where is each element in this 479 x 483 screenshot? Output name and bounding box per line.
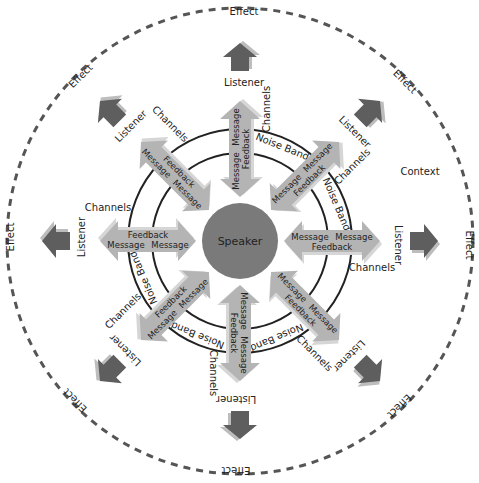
communication-model-diagram: Context MessageMessageFeedbackListenerEf… xyxy=(0,0,479,483)
effect-label: Effect xyxy=(61,386,89,414)
effect-label: Effect xyxy=(391,67,419,95)
message-label: Message xyxy=(239,336,249,373)
message-label: Message xyxy=(239,292,249,329)
message-label: Message xyxy=(151,240,188,250)
message-label: Message xyxy=(231,152,241,189)
effect-label: Effect xyxy=(5,223,16,252)
channels-label: Channels xyxy=(349,262,395,273)
context-label: Context xyxy=(400,166,439,177)
listener-label: Listener xyxy=(393,225,404,266)
feedback-label: Feedback xyxy=(229,313,239,354)
message-label: Message xyxy=(107,240,144,250)
feedback-label: Feedback xyxy=(312,242,353,252)
feedback-label: Feedback xyxy=(128,230,169,240)
message-label: Message xyxy=(231,108,241,145)
diagram-canvas: Context MessageMessageFeedbackListenerEf… xyxy=(0,0,479,483)
message-label: Message xyxy=(291,232,328,242)
effect-label: Effect xyxy=(66,62,94,90)
effect-label: Effect xyxy=(464,231,475,260)
message-feedback-double-arrow xyxy=(127,128,223,224)
listener-label: Listener xyxy=(76,216,87,257)
channels-label: Channels xyxy=(208,350,219,396)
message-label: Message xyxy=(335,232,372,242)
spoke: MessageMessageFeedbackListenerEffectChan… xyxy=(284,221,475,273)
feedback-label: Feedback xyxy=(241,129,251,170)
effect-label: Effect xyxy=(230,6,259,17)
spoke: MessageMessageFeedbackListenerEffectChan… xyxy=(5,202,196,261)
channels-label: Channels xyxy=(85,202,131,213)
listener-label: Listener xyxy=(215,394,256,405)
listener-label: Listener xyxy=(224,77,265,88)
effect-label: Effect xyxy=(385,392,413,420)
channels-label: Channels xyxy=(261,86,272,132)
speaker-label: Speaker xyxy=(218,235,263,248)
spoke: MessageMessageFeedbackListenerEffectChan… xyxy=(60,47,237,224)
noise-band-label: Noise Band xyxy=(254,131,311,162)
noise-band-label: Noise Band xyxy=(169,320,226,351)
effect-label: Effect xyxy=(222,465,251,476)
